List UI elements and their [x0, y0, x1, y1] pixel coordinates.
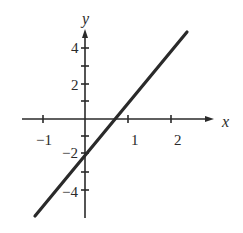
x-tick-label: −1: [36, 132, 52, 148]
x-axis-arrow-icon: [205, 116, 214, 122]
y-tick-label: 4: [71, 40, 79, 56]
chart-canvas: y x −1 1 2 4 2 −2 −4: [0, 0, 243, 233]
y-axis: [81, 29, 89, 218]
y-axis-arrow-icon: [82, 29, 88, 38]
x-tick-label: 2: [174, 132, 182, 148]
x-tick-label: 1: [131, 132, 139, 148]
y-tick-label: −2: [62, 145, 78, 161]
y-axis-label: y: [80, 10, 90, 28]
y-tick-label: −4: [62, 184, 78, 200]
data-line: [35, 32, 187, 216]
y-tick-label: 2: [71, 77, 79, 93]
x-axis-label: x: [221, 113, 229, 130]
